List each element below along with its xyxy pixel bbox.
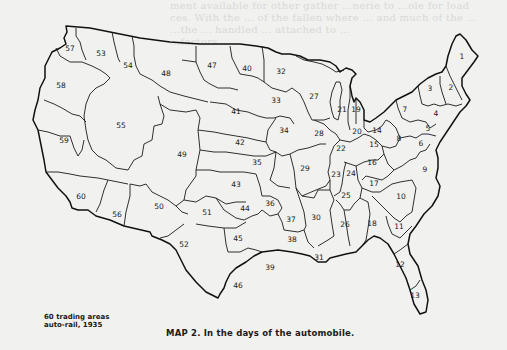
- area-label-7: 7: [403, 105, 408, 114]
- area-label-26: 26: [340, 220, 350, 229]
- area-label-22: 22: [336, 144, 346, 153]
- area-label-60: 60: [76, 192, 86, 201]
- area-label-45: 45: [233, 234, 243, 243]
- area-label-33: 33: [271, 96, 281, 105]
- map-page: ment available for other gather ...nerie…: [0, 0, 507, 350]
- area-label-43: 43: [231, 180, 241, 189]
- area-label-48: 48: [161, 69, 171, 78]
- area-label-52: 52: [179, 240, 189, 249]
- area-label-15: 15: [369, 140, 379, 149]
- legend-line-1: 60 trading areas: [44, 313, 109, 321]
- area-label-56: 56: [112, 210, 122, 219]
- area-label-42: 42: [235, 138, 245, 147]
- area-label-32: 32: [276, 67, 286, 76]
- area-label-17: 17: [369, 179, 379, 188]
- area-label-28: 28: [314, 129, 324, 138]
- area-label-29: 29: [300, 164, 310, 173]
- area-label-14: 14: [372, 126, 382, 135]
- legend-line-2: auto-rail, 1935: [44, 321, 109, 329]
- area-label-21: 21: [337, 105, 347, 114]
- area-label-57: 57: [65, 44, 75, 53]
- us-outline: [33, 26, 478, 314]
- area-label-59: 59: [59, 136, 69, 145]
- area-label-44: 44: [240, 204, 250, 213]
- area-label-31: 31: [314, 253, 324, 262]
- area-label-19: 19: [351, 105, 361, 114]
- area-label-9: 9: [423, 165, 428, 174]
- area-label-27: 27: [309, 92, 319, 101]
- area-label-36: 36: [265, 199, 275, 208]
- area-label-23: 23: [331, 170, 341, 179]
- area-label-35: 35: [252, 158, 262, 167]
- area-label-25: 25: [341, 191, 351, 200]
- area-label-12: 12: [395, 260, 405, 269]
- area-label-8: 8: [397, 134, 402, 143]
- area-label-37: 37: [286, 215, 296, 224]
- lake-michigan: [330, 82, 342, 120]
- area-label-5: 5: [426, 124, 431, 133]
- area-label-49: 49: [177, 150, 187, 159]
- area-labels: 1234567891011121314151617181920212223242…: [56, 44, 464, 300]
- area-label-13: 13: [410, 291, 420, 300]
- area-label-3: 3: [428, 84, 433, 93]
- area-label-16: 16: [367, 158, 377, 167]
- area-label-53: 53: [96, 49, 106, 58]
- area-label-51: 51: [202, 208, 212, 217]
- area-label-47: 47: [207, 61, 217, 70]
- area-label-40: 40: [242, 64, 252, 73]
- area-label-1: 1: [460, 52, 465, 61]
- area-label-38: 38: [287, 235, 297, 244]
- map-legend: 60 trading areas auto-rail, 1935: [44, 313, 109, 329]
- map-caption: MAP 2. In the days of the automobile.: [166, 328, 355, 338]
- area-label-11: 11: [394, 222, 404, 231]
- us-trading-areas-map: 1234567891011121314151617181920212223242…: [0, 0, 507, 350]
- area-label-10: 10: [396, 192, 406, 201]
- area-label-41: 41: [231, 107, 241, 116]
- area-label-58: 58: [56, 81, 66, 90]
- area-label-20: 20: [352, 127, 362, 136]
- area-label-39: 39: [265, 263, 275, 272]
- area-label-34: 34: [279, 126, 289, 135]
- area-label-55: 55: [116, 121, 126, 130]
- area-label-30: 30: [311, 213, 321, 222]
- area-label-46: 46: [233, 281, 243, 290]
- area-label-18: 18: [367, 219, 377, 228]
- area-label-4: 4: [434, 109, 439, 118]
- area-label-6: 6: [419, 139, 424, 148]
- area-label-50: 50: [154, 202, 164, 211]
- area-label-2: 2: [449, 83, 454, 92]
- area-label-54: 54: [123, 61, 133, 70]
- area-label-24: 24: [346, 169, 356, 178]
